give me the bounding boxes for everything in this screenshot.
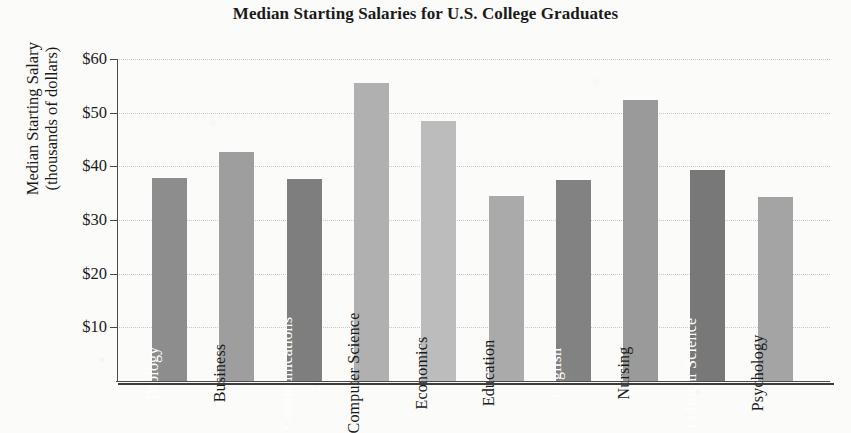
gridline: [117, 113, 830, 114]
y-axis-tick-label: $50: [82, 103, 107, 123]
y-axis-tick: [110, 274, 117, 275]
bar-business: Business: [219, 152, 254, 381]
y-axis-tick: [110, 327, 117, 328]
y-axis-line: [117, 59, 118, 381]
bar-biology: Biology: [152, 178, 187, 381]
plot-area: $60$50$40$30$20$10 BiologyBusinessCommun…: [117, 59, 830, 381]
bar-category-label: Nursing: [606, 347, 641, 400]
y-axis-title-line-1: Median Starting Salary: [24, 0, 43, 259]
bar-computer-science: Computer Science: [354, 83, 389, 381]
y-axis-tick: [110, 113, 117, 114]
bar-political-science: Political Science: [690, 170, 725, 381]
gridline: [117, 59, 830, 60]
x-axis-line: [116, 381, 830, 382]
bar-category-label: English: [538, 348, 573, 398]
page-bottom-rule: [118, 383, 834, 385]
y-axis-tick-label: $40: [82, 156, 107, 176]
bar-category-label: Communications: [269, 317, 304, 429]
y-axis-tick-label: $10: [82, 317, 107, 337]
bar-category-label: Education: [471, 340, 506, 407]
y-axis-tick: [110, 59, 117, 60]
y-axis-title: Median Starting Salary (thousands of dol…: [24, 0, 61, 259]
bar-education: Education: [489, 196, 524, 381]
bar-nursing: Nursing: [623, 100, 658, 381]
y-axis-tick: [110, 166, 117, 167]
bar-category-label: Economics: [404, 337, 439, 410]
y-axis-title-line-2: (thousands of dollars): [43, 0, 62, 259]
bar-category-label: Psychology: [740, 335, 775, 412]
bar-communications: Communications: [287, 179, 322, 381]
bar-category-label: Business: [202, 344, 237, 403]
bar-category-label: Political Science: [673, 318, 708, 428]
bar-psychology: Psychology: [758, 197, 793, 381]
bar-category-label: Computer Science: [336, 313, 371, 433]
chart-title: Median Starting Salaries for U.S. Colleg…: [0, 4, 851, 24]
bar-category-label: Biology: [135, 347, 170, 400]
y-axis-tick-label: $20: [82, 264, 107, 284]
y-axis-tick: [110, 220, 117, 221]
bar-english: English: [556, 180, 591, 381]
y-axis-tick-label: $60: [82, 49, 107, 69]
y-axis-tick-label: $30: [82, 210, 107, 230]
bar-economics: Economics: [421, 121, 456, 381]
